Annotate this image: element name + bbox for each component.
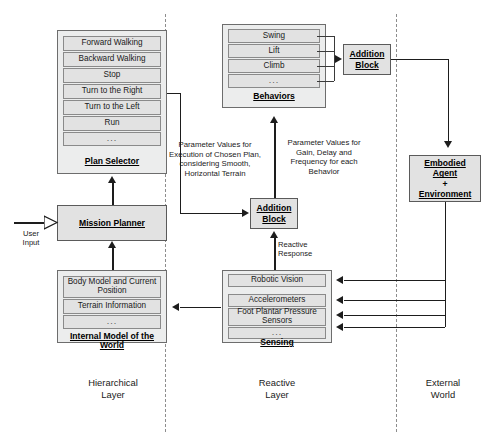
reactive-layer-line1: Reactive bbox=[259, 377, 295, 388]
hierarchical-layer-label: Hierarchical Layer bbox=[48, 377, 178, 401]
bus-behavior-3 bbox=[317, 81, 334, 82]
line-plan-to-addition-h2 bbox=[180, 213, 242, 214]
user-input-line bbox=[14, 222, 45, 224]
bus-behavior-2 bbox=[317, 66, 334, 67]
plan-selector-item-2[interactable]: Stop bbox=[63, 68, 161, 83]
arrow-sensing-to-addition bbox=[270, 231, 278, 238]
bus-behavior-0 bbox=[317, 36, 334, 37]
line-agent-to-sensing-3 bbox=[344, 327, 445, 328]
arrow-agent-to-sensing-2 bbox=[336, 311, 343, 319]
user-input-arrowhead-icon bbox=[44, 215, 59, 230]
reactive-response-line1: Reactive bbox=[278, 240, 308, 249]
behaviors-addition-line2: Block bbox=[355, 60, 378, 70]
line-agent-to-sensing-2 bbox=[344, 315, 445, 316]
arrow-mission-to-plan bbox=[108, 176, 116, 183]
embodied-agent-line3: Environment bbox=[419, 189, 472, 199]
sensing-item-0[interactable]: Robotic Vision bbox=[228, 274, 326, 287]
plan-parameters-note: Parameter Values for Execution of Chosen… bbox=[166, 140, 264, 179]
embodied-agent-plus: + bbox=[442, 179, 447, 189]
sensing-item-2[interactable]: Foot Plantar Pressure Sensors bbox=[228, 308, 326, 326]
internal-model-title: Internal Model of the World bbox=[57, 332, 167, 351]
behaviors-item-2[interactable]: Climb bbox=[228, 59, 320, 73]
arrow-addition-to-agent bbox=[444, 141, 452, 148]
line-sensing-to-addition bbox=[274, 238, 276, 272]
central-addition-block[interactable]: Addition Block bbox=[250, 198, 298, 229]
arrow-agent-to-sensing-3 bbox=[336, 323, 343, 331]
behaviors-addition-block[interactable]: Addition Block bbox=[343, 44, 391, 75]
reactive-layer-label: Reactive Layer bbox=[212, 377, 342, 401]
reactive-response-line2: Response bbox=[278, 249, 312, 258]
mission-planner-box[interactable]: Mission Planner bbox=[57, 205, 167, 241]
divider-reactive-external bbox=[396, 14, 397, 432]
line-mission-to-plan bbox=[112, 182, 114, 205]
reactive-layer-line2: Layer bbox=[265, 389, 288, 400]
reactive-response-label: Reactive Response bbox=[278, 240, 340, 258]
user-input-label: User Input bbox=[7, 229, 55, 247]
embodied-agent-line1: Embodied bbox=[424, 158, 466, 168]
plan-selector-item-1[interactable]: Backward Walking bbox=[63, 52, 161, 67]
line-agent-to-sensing-v bbox=[445, 202, 446, 327]
diagram-canvas: Forward Walking Backward Walking Stop Tu… bbox=[0, 0, 483, 443]
bus-behavior-1 bbox=[317, 51, 334, 52]
internal-model-item-1[interactable]: Terrain Information bbox=[63, 299, 161, 314]
plan-selector-item-6[interactable]: ... bbox=[63, 132, 161, 146]
plan-selector-item-0[interactable]: Forward Walking bbox=[63, 36, 161, 51]
arrow-behaviors-to-addition bbox=[335, 55, 342, 63]
arrow-agent-to-sensing-1 bbox=[336, 296, 343, 304]
line-model-to-mission bbox=[112, 248, 114, 270]
embodied-agent-box[interactable]: Embodied Agent + Environment bbox=[409, 155, 481, 202]
internal-model-item-2[interactable]: ... bbox=[63, 315, 161, 329]
line-agent-to-sensing-0 bbox=[344, 280, 445, 281]
arrow-agent-to-sensing-0 bbox=[336, 276, 343, 284]
line-agent-to-sensing-1 bbox=[344, 300, 445, 301]
behavior-parameters-note: Parameter Values for Gain, Delay and Fre… bbox=[278, 138, 370, 177]
sensing-title: Sensing bbox=[222, 338, 332, 347]
user-input-line1: User bbox=[23, 229, 39, 238]
central-addition-line2: Block bbox=[262, 214, 285, 224]
internal-model-title-line2: World bbox=[100, 340, 124, 350]
behaviors-item-1[interactable]: Lift bbox=[228, 44, 320, 58]
central-addition-line1: Addition bbox=[257, 203, 292, 213]
external-world-line2: World bbox=[431, 389, 455, 400]
arrow-plan-to-addition bbox=[242, 209, 249, 217]
line-addition-to-behaviors bbox=[274, 122, 276, 198]
hierarchical-layer-line2: Layer bbox=[101, 389, 124, 400]
plan-selector-item-5[interactable]: Run bbox=[63, 116, 161, 131]
behaviors-title: Behaviors bbox=[222, 92, 326, 101]
user-input-line2: Input bbox=[23, 238, 40, 247]
plan-selector-item-3[interactable]: Turn to the Right bbox=[63, 84, 161, 99]
behaviors-item-0[interactable]: Swing bbox=[228, 29, 320, 43]
embodied-agent-line2: Agent bbox=[433, 168, 457, 178]
plan-selector-item-4[interactable]: Turn to the Left bbox=[63, 100, 161, 115]
internal-model-item-0[interactable]: Body Model and Current Position bbox=[63, 276, 161, 298]
line-plan-to-addition-h1 bbox=[167, 93, 180, 94]
behaviors-addition-line1: Addition bbox=[350, 49, 385, 59]
external-world-line1: External bbox=[426, 377, 460, 388]
behaviors-item-3[interactable]: ... bbox=[228, 74, 320, 88]
mission-planner-title: Mission Planner bbox=[79, 218, 145, 228]
external-world-label: External World bbox=[404, 377, 482, 401]
line-addition-to-agent-v bbox=[448, 59, 449, 143]
arrow-model-to-mission bbox=[108, 241, 116, 248]
arrow-sensing-to-model bbox=[172, 303, 179, 311]
hierarchical-layer-line1: Hierarchical bbox=[88, 377, 138, 388]
arrow-addition-to-behaviors bbox=[270, 116, 278, 123]
sensing-item-1[interactable]: Accelerometers bbox=[228, 294, 326, 307]
plan-selector-title: Plan Selector bbox=[57, 157, 167, 166]
line-sensing-to-model bbox=[180, 307, 221, 308]
line-addition-to-agent-h bbox=[391, 59, 448, 60]
